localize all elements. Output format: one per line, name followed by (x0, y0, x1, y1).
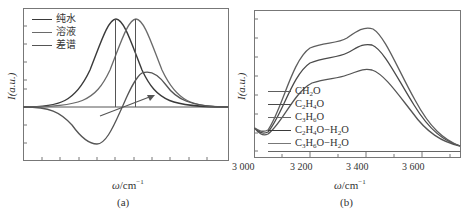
legend-label-pure-water: 纯水 (56, 13, 76, 25)
curve-c3h6o (255, 69, 461, 146)
legend-swatch-pure-water (32, 19, 52, 20)
legend-swatch-c3h6o-h2o (268, 143, 291, 144)
legend-swatch-difference (32, 45, 52, 46)
x-axis-label-b: ω/cm−1 (334, 178, 366, 191)
y-axis-label-a: I(a.u.) (5, 73, 17, 101)
legend-label-c3h6o: C3H6O (295, 111, 324, 123)
x-tick-3000: 3 000 (232, 161, 255, 172)
legend-label-c2h4o: C2H4O (295, 98, 324, 110)
y-axis-label-b: I(a.u.) (235, 73, 247, 101)
legend-swatch-c3h6o (268, 117, 291, 118)
panel-a: 纯水 溶液 差谱 I(a.u.) ω/cm−1 (a) (0, 0, 232, 214)
legend-swatch-solution (32, 32, 52, 33)
x-tick-3400: 3 400 (346, 161, 369, 172)
x-tick-3200: 3 200 (290, 161, 313, 172)
legend-label-difference: 差谱 (56, 39, 76, 51)
curve-ch2o (255, 28, 461, 146)
legend-label-c2h4o-h2o: C2H4O−H2O (295, 124, 349, 136)
curve-difference (24, 72, 229, 144)
caption-a: (a) (117, 196, 129, 208)
curve-solution (24, 19, 229, 107)
caption-b: (b) (340, 196, 353, 208)
legend-label-c3h6o-h2o: C3H6O−H2O (295, 137, 349, 149)
legend-swatch-c2h4o (268, 104, 291, 105)
legend-swatch-c2h4o-h2o (268, 130, 291, 131)
legend-label-solution: 溶液 (56, 26, 76, 38)
x-tick-3600: 3 600 (402, 161, 425, 172)
panel-b: CH2O C2H4O C3H6O C2H4O−H2O C3H6O−H2O I(a… (232, 0, 465, 214)
legend-label-ch2o: CH2O (295, 85, 321, 97)
legend-swatch-ch2o (268, 91, 291, 92)
x-axis-label-a: ω/cm−1 (112, 178, 144, 191)
